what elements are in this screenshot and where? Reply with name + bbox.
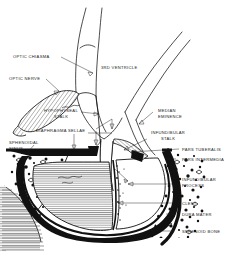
label-third-ventricle: 3RD VENTRICLE: [101, 65, 137, 70]
label-diaphragma-sellae: DIAPHRAGMA SELLAE: [36, 128, 85, 133]
label-sphenoidal-sinus-2: SINUS: [9, 146, 23, 151]
label-pars-tuberalis: PARS TUBERALIS: [182, 147, 221, 152]
anatomy-svg: OPTIC CHIASMA OPTIC NERVE 3RD VENTRICLE …: [0, 0, 241, 265]
label-optic-chiasma: OPTIC CHIASMA: [13, 54, 49, 59]
label-median-eminence-2: EMINENCE: [158, 114, 182, 119]
label-infundibular-stalk-2: STALK: [161, 136, 175, 141]
label-dura-mater: DURA MATER: [182, 212, 212, 217]
label-hypophyseal-stalk-1: HYPOPHYSEAL: [44, 108, 78, 113]
label-optic-nerve: OPTIC NERVE: [9, 76, 40, 81]
label-sphenoid-bone: SPHENOID BONE: [182, 229, 220, 234]
label-infundibular-process-1: INFUNDIBULAR: [182, 177, 216, 182]
label-sphenoidal-sinus-1: SPHENOIDAL: [9, 140, 39, 145]
label-median-eminence-1: MEDIAN: [158, 108, 176, 113]
label-pars-intermedia: PARS INTERMEDIA: [182, 157, 224, 162]
label-hypophyseal-stalk-2: STALK: [54, 114, 68, 119]
label-infundibular-stalk-1: INFUNDIBULAR: [151, 130, 185, 135]
label-cleft: CLEFT: [182, 201, 197, 206]
anatomy-figure: OPTIC CHIASMA OPTIC NERVE 3RD VENTRICLE …: [0, 0, 241, 265]
label-infundibular-process-2: PROCESS: [182, 183, 204, 188]
